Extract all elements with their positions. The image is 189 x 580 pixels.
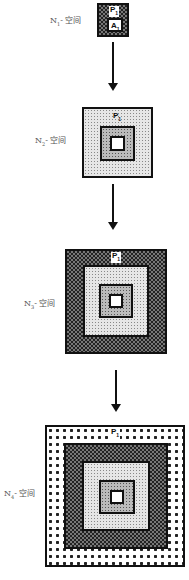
label-suffix: - 空间 bbox=[60, 16, 81, 25]
stage-4-light-box bbox=[82, 461, 150, 531]
stage-2-mid-box bbox=[100, 126, 135, 161]
stage-4-core-box bbox=[110, 490, 124, 504]
stage-1-a-tag: A1 bbox=[110, 22, 121, 33]
stage-2-label: N2- 空间 bbox=[35, 134, 66, 147]
stage-2-outer-box: P1 bbox=[82, 107, 153, 178]
stage-2-p-tag: P1 bbox=[112, 112, 122, 123]
stage-4-outer-box: P1 bbox=[45, 425, 185, 567]
stage-1-inner-box-a: A1 bbox=[107, 18, 123, 32]
stage-2-core-box bbox=[110, 136, 125, 151]
stage-4-label: N4- 空间 bbox=[4, 487, 35, 500]
stage-3-light-box bbox=[83, 265, 149, 337]
stage-3-outer-box: P1 bbox=[65, 249, 167, 354]
arrow-down-icon bbox=[112, 42, 114, 85]
stage-1-label: N1- 空间 bbox=[50, 14, 81, 27]
label-n: N bbox=[50, 16, 57, 25]
arrow-down-icon bbox=[115, 370, 117, 406]
stage-4-mid-box bbox=[99, 480, 135, 514]
stage-3-label: N3- 空间 bbox=[24, 297, 55, 310]
stage-3-core-box bbox=[109, 294, 123, 308]
stage-4-p-tag: P1 bbox=[110, 428, 120, 439]
stage-3-mid-box bbox=[99, 284, 133, 318]
stage-4-dark-box bbox=[64, 443, 168, 549]
arrow-down-icon bbox=[112, 184, 114, 224]
stage-3-p-tag: P1 bbox=[111, 252, 121, 263]
stage-1-p-tag: P1 bbox=[109, 6, 119, 17]
stage-1-outer-box: P1 A1 bbox=[97, 3, 129, 37]
